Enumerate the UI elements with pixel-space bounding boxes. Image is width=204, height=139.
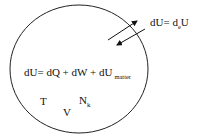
outflow-arrow-icon (108, 21, 137, 40)
temperature-label: T (40, 96, 47, 107)
energy-balance-equation: dU= dQ + dW + dUmatter (24, 67, 131, 81)
moles-label: Nk (79, 95, 90, 109)
exchange-label-tail: U (181, 16, 189, 28)
volume-label: V (63, 107, 71, 118)
moles-main: N (79, 94, 87, 106)
equation-sub: matter (114, 73, 131, 80)
exchange-label-main: dU= d (150, 16, 178, 28)
exchange-label: dU= deU (150, 17, 189, 31)
equation-main: dU= dQ + dW + dU (24, 66, 112, 78)
moles-sub: k (87, 101, 91, 109)
